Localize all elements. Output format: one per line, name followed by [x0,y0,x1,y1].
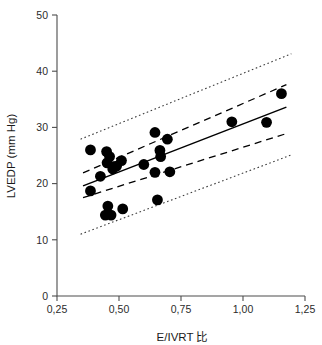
data-point [276,88,287,99]
data-point [85,186,96,197]
x-axis-title: E/IVRT 比 [157,331,208,343]
y-tick-label: 10 [36,234,48,246]
x-tick-label: 0,50 [109,303,130,315]
data-point [164,166,175,177]
data-point [152,195,163,206]
x-tick-label: 1,00 [233,303,254,315]
data-point [261,117,272,128]
x-axis-ticks: 0,250,500,751,001,25 [47,296,316,315]
y-axis-title: LVEDP (mm Hg) [5,114,17,199]
data-point [117,203,128,214]
y-tick-label: 50 [36,9,48,21]
data-point [106,210,117,221]
plot-canvas: 0,250,500,751,001,25 01020304050 E/IVRT … [0,0,322,345]
axis-spines [57,15,305,296]
x-tick-label: 0,25 [47,303,68,315]
data-point [150,127,161,138]
y-tick-label: 0 [42,290,48,302]
data-point [150,167,161,178]
x-tick-label: 0,75 [171,303,192,315]
axis-lines-group [57,15,305,296]
data-point [116,155,127,166]
confidence-interval-band [83,85,286,198]
scatter-plot-figure: 0,250,500,751,001,25 01020304050 E/IVRT … [0,0,322,345]
data-point [162,134,173,145]
y-axis-ticks: 01020304050 [36,9,57,302]
y-tick-label: 40 [36,65,48,77]
data-point [85,144,96,155]
x-tick-label: 1,25 [295,303,316,315]
data-point [138,159,149,170]
data-point [95,171,106,182]
y-tick-label: 30 [36,121,48,133]
data-point [226,116,237,127]
data-points-group [85,88,287,220]
data-point [155,151,166,162]
y-tick-label: 20 [36,177,48,189]
